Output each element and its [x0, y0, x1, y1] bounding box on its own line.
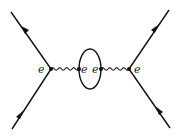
photon-left-line [51, 68, 79, 71]
outgoing-right-electron-line [129, 10, 169, 69]
fermion-lines [11, 10, 170, 129]
outgoing-left-electron-line [11, 12, 51, 69]
label-right-vertex: e [134, 63, 141, 76]
label-left-vertex: e [38, 63, 45, 76]
arrow-icon [21, 26, 29, 34]
vertex-right [127, 67, 131, 71]
label-loop-right: e [92, 63, 99, 76]
arrow-icon [155, 106, 163, 115]
photon-right-line [101, 68, 129, 71]
incoming-left-electron-line [12, 69, 51, 129]
vertex-loop-right [99, 67, 103, 71]
arrow-icon [16, 110, 24, 119]
diagram-canvas: e e e e [0, 0, 179, 138]
label-loop-left: e [81, 63, 88, 76]
feynman-diagram: e e e e [0, 0, 179, 138]
incoming-right-electron-line [129, 69, 170, 128]
photon-lines [51, 68, 129, 71]
vertex-left [49, 67, 53, 71]
